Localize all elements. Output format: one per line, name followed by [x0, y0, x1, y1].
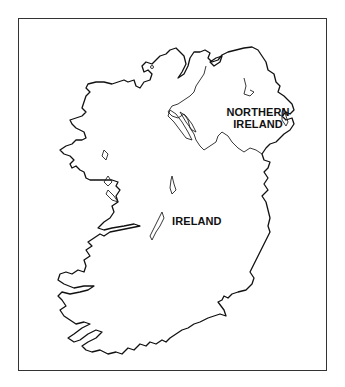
- island-dot: [151, 66, 154, 69]
- label-ni-line1: NORTHERN: [218, 106, 298, 118]
- lough-derg: [150, 212, 164, 240]
- lough-conn: [102, 150, 108, 160]
- label-ireland: IRELAND: [172, 215, 222, 227]
- island-coastline: [58, 47, 294, 354]
- lough-mask: [104, 176, 112, 186]
- ireland-map: [0, 0, 345, 387]
- label-ie-line1: IRELAND: [172, 215, 222, 227]
- label-ni-line2: IRELAND: [218, 118, 298, 130]
- lough-neagh: [244, 78, 254, 96]
- label-northern-ireland: NORTHERN IRELAND: [218, 106, 298, 130]
- lough-ree: [170, 176, 176, 194]
